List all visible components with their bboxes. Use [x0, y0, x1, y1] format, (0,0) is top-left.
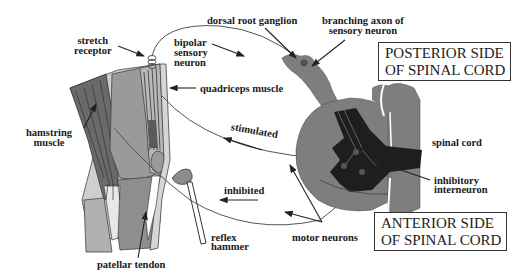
reflex-arc-diagram: stretch receptor bipolar sensory neuron …: [0, 0, 530, 277]
label-line: hammer: [211, 242, 249, 251]
label-stretch-receptor: stretch receptor: [74, 36, 112, 56]
box-line: OF SPINAL CORD: [385, 62, 505, 79]
box-line: POSTERIOR SIDE: [385, 45, 505, 62]
label-inhibited: inhibited: [224, 186, 264, 196]
label-line: sensory neuron: [322, 26, 404, 36]
label-quadriceps-muscle: quadriceps muscle: [200, 84, 283, 94]
posterior-side-box: POSTERIOR SIDE OF SPINAL CORD: [378, 42, 511, 81]
label-reflex-hammer: reflex hammer: [211, 233, 249, 251]
label-line: receptor: [74, 46, 112, 56]
label-line: neuron: [174, 58, 208, 68]
label-dorsal-root-ganglion: dorsal root ganglion: [207, 16, 297, 26]
label-line: interneuron: [434, 185, 487, 194]
box-line: OF SPINAL CORD: [381, 232, 501, 249]
label-branching-axon: branching axon of sensory neuron: [322, 16, 404, 36]
box-line: ANTERIOR SIDE: [381, 215, 501, 232]
label-motor-neurons: motor neurons: [292, 233, 358, 243]
label-inhibitory-interneuron: inhibitory interneuron: [434, 176, 487, 194]
dorsal-root-ganglion-cell: [301, 60, 307, 66]
label-bipolar-sensory-neuron: bipolar sensory neuron: [174, 38, 208, 68]
label-line: muscle: [26, 138, 72, 148]
knee-illustration: [70, 56, 170, 253]
anterior-side-box: ANTERIOR SIDE OF SPINAL CORD: [374, 212, 507, 251]
label-hamstring-muscle: hamstring muscle: [26, 128, 72, 148]
label-spinal-cord: spinal cord: [432, 138, 482, 148]
label-patellar-tendon: patellar tendon: [97, 260, 165, 270]
